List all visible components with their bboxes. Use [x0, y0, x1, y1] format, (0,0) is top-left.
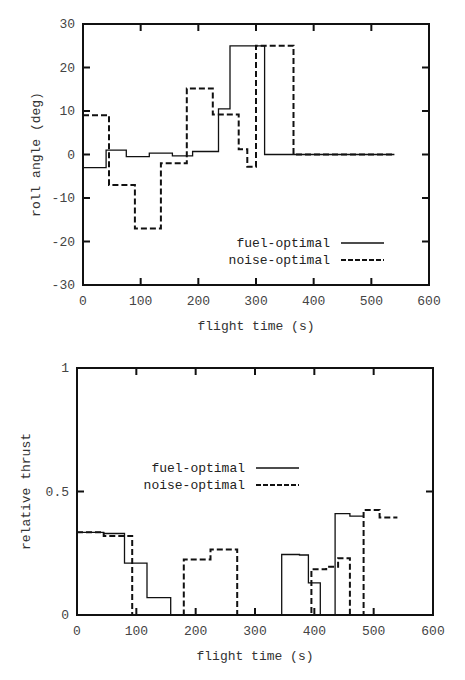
figure: 0100200300400500600-30-20-100102030fuel-…	[0, 0, 465, 680]
legend-label: fuel-optimal	[151, 461, 245, 476]
x-tick-label: 300	[244, 294, 267, 309]
legend-label: noise-optimal	[229, 253, 331, 268]
x-tick-label: 500	[362, 624, 385, 639]
chart-2: 010020030040050060000.51fuel-optimalnois…	[19, 361, 445, 664]
x-tick-label: 600	[417, 294, 440, 309]
x-tick-label: 300	[243, 624, 266, 639]
x-tick-label: 500	[360, 294, 383, 309]
y-tick-label: 1	[61, 361, 69, 376]
plot-frame	[77, 368, 433, 615]
x-axis-label: flight time (s)	[197, 319, 314, 334]
chart-1: 0100200300400500600-30-20-100102030fuel-…	[29, 17, 441, 334]
y-tick-label: 20	[59, 61, 75, 76]
x-tick-label: 600	[421, 624, 444, 639]
y-axis-label: relative thrust	[19, 433, 34, 550]
x-tick-label: 400	[302, 294, 325, 309]
y-tick-label: 0	[67, 148, 75, 163]
x-tick-label: 200	[187, 294, 210, 309]
y-axis-label: roll angle (deg)	[29, 92, 44, 217]
y-tick-label: -10	[52, 191, 75, 206]
x-axis-label: flight time (s)	[196, 649, 313, 664]
x-tick-label: 0	[79, 294, 87, 309]
x-tick-label: 0	[73, 624, 81, 639]
y-tick-label: 30	[59, 17, 75, 32]
x-tick-label: 100	[129, 294, 152, 309]
x-tick-label: 200	[184, 624, 207, 639]
legend-label: fuel-optimal	[236, 236, 330, 251]
y-tick-label: 0	[61, 608, 69, 623]
legend-label: noise-optimal	[144, 478, 246, 493]
y-tick-label: 10	[59, 104, 75, 119]
y-tick-label: 0.5	[46, 485, 69, 500]
series-fuel-optimal	[77, 514, 363, 615]
x-tick-label: 400	[303, 624, 326, 639]
series-noise-optimal	[83, 46, 394, 229]
y-tick-label: -30	[52, 278, 75, 293]
y-tick-label: -20	[52, 235, 75, 250]
x-tick-label: 100	[125, 624, 148, 639]
